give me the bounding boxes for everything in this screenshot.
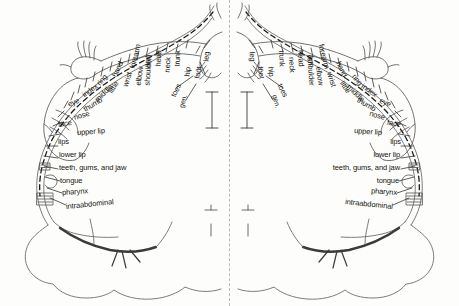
label-lower-lip-left: lower lip (59, 150, 86, 159)
label-leg-right: leg (248, 51, 258, 61)
label-pharynx-right: pharynx (371, 186, 398, 197)
left-scale-bracket (206, 92, 218, 128)
label-trunk-right: trunk (277, 50, 287, 66)
left-tick-marks (205, 205, 217, 236)
midline-divider (229, 0, 230, 306)
label-lips-right: lips (390, 137, 401, 146)
label-head-left: head (154, 50, 164, 67)
label-foot-right: foot (255, 66, 266, 80)
right-scale-bracket (241, 92, 253, 128)
label-teeth-gums-jaw-left: teeth, gums, and jaw (59, 163, 126, 172)
label-upper-lip-right: upper lip (354, 126, 382, 137)
label-hip-left: hip (183, 66, 193, 77)
label-hip-right: hip (267, 66, 277, 77)
label-tongue-right: tongue (377, 176, 399, 185)
label-neck-left: neck (163, 57, 173, 73)
left-hemisphere-outline (25, 6, 221, 299)
right-tick-marks (242, 205, 254, 236)
label-head-right: head (296, 50, 306, 67)
right-hemisphere-outline (238, 6, 434, 299)
label-lower-lip-right: lower lip (373, 150, 400, 159)
label-teeth-gums-jaw-right: teeth, gums, and jaw (333, 163, 400, 172)
label-leg-left: leg (202, 51, 212, 61)
right-homunculus-body (237, 3, 422, 205)
label-arm-right: arm (307, 55, 317, 68)
label-lips-left: lips (58, 137, 69, 146)
label-trunk-left: trunk (173, 50, 183, 66)
label-arm-left: arm (143, 55, 153, 68)
homunculus-figure: gen. toes foot leg hip trunk neck head s… (0, 0, 459, 306)
label-face-right: face (387, 118, 402, 129)
label-pharynx-left: pharynx (62, 186, 89, 197)
label-neck-right: neck (286, 57, 296, 73)
label-tongue-left: tongue (60, 176, 82, 185)
left-homunculus-body (37, 3, 222, 205)
